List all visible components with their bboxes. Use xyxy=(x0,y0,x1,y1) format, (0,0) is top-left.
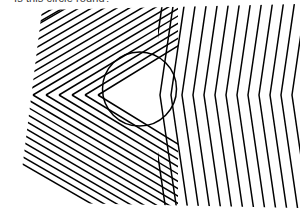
left-wide-chevrons xyxy=(0,0,304,218)
chevron-field xyxy=(0,0,304,218)
test-circle xyxy=(103,52,177,126)
illusion-figure xyxy=(0,0,304,218)
illusion-screenshot: Is this circle round? xyxy=(0,0,304,218)
